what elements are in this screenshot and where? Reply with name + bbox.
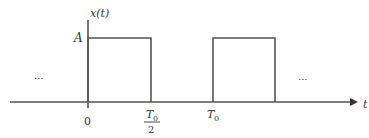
ellipsis-right: ... [298, 71, 308, 82]
pulse-train-diagram: x(t) A t ... ... 0 T 0 2 T 0 [0, 0, 369, 138]
y-axis-label: x(t) [90, 7, 109, 20]
tick-half-period: T 0 2 [144, 108, 160, 135]
svg-text:0: 0 [214, 114, 219, 123]
amplitude-label: A [73, 31, 83, 45]
pulse-1 [88, 38, 151, 102]
svg-text:2: 2 [148, 124, 154, 135]
pulse-2 [213, 38, 275, 102]
ellipsis-left: ... [34, 70, 44, 81]
tick-origin: 0 [84, 115, 91, 128]
x-axis-label: t [363, 98, 368, 111]
tick-period: T 0 [207, 108, 219, 123]
